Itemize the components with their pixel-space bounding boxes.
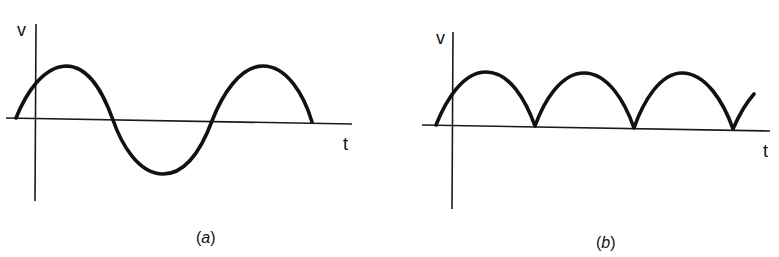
figure-canvas: v t (a) v t (b) (0, 0, 779, 257)
panel-a-x-label: t (343, 134, 348, 154)
panel-a: v t (a) (6, 20, 352, 246)
panel-a-y-axis (35, 24, 36, 201)
panel-a-x-axis (6, 118, 352, 124)
panel-b: v t (b) (422, 28, 770, 251)
panel-b-y-label: v (436, 28, 445, 48)
panel-b-caption: (b) (596, 234, 616, 251)
panel-a-y-label: v (17, 20, 26, 40)
panel-b-rectified-wave (436, 72, 754, 129)
panel-b-x-label: t (763, 141, 768, 161)
panel-b-y-axis (452, 32, 453, 209)
panel-a-caption: (a) (196, 229, 216, 246)
panel-b-x-axis (422, 125, 770, 131)
